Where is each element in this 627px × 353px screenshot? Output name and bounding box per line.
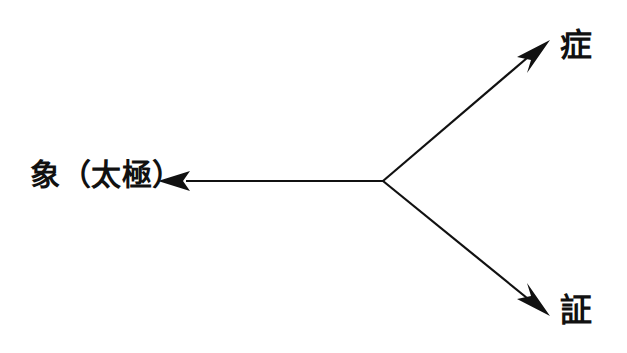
node-label-origin: 象（太極） [30, 160, 183, 190]
arrow-to-origin [158, 171, 383, 191]
arrow-shaft-branch-lower [383, 181, 527, 298]
arrowhead-branch-upper [517, 40, 550, 73]
node-label-branch-lower: 証 [560, 294, 593, 326]
arrowhead-branch-lower [517, 283, 550, 316]
arrow-shaft-branch-upper [383, 58, 527, 181]
node-label-branch-upper: 症 [560, 29, 593, 61]
arrow-to-branch-upper [383, 40, 550, 181]
arrow-to-branch-lower [383, 181, 550, 316]
diagram-canvas: 象（太極） 症 証 [0, 0, 627, 353]
